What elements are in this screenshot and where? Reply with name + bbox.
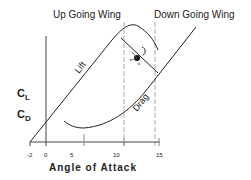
tip-dot [138,63,140,65]
lift-curve [30,25,158,142]
cd-label: CD [17,108,31,123]
x-tick-label: -2 [27,152,33,158]
x-axis-title: Angle of Attack [49,162,137,173]
wing-line [121,38,158,73]
tip-dot [130,59,132,61]
x-tick-label: 0 [44,152,48,158]
header-down-going-wing: Down Going Wing [154,9,235,20]
aoa-diagram: Up Going Wing Down Going Wing Lift Drag … [0,0,251,180]
drag-curve [64,27,196,128]
cl-label: CL [17,87,30,102]
rotation-arrow-icon [142,47,145,55]
x-tick-label: 5 [70,152,74,158]
header-up-going-wing: Up Going Wing [53,9,121,20]
drag-label: Drag [131,92,151,114]
x-tick-label: 15 [156,152,163,158]
x-tick-label: 10 [113,152,120,158]
